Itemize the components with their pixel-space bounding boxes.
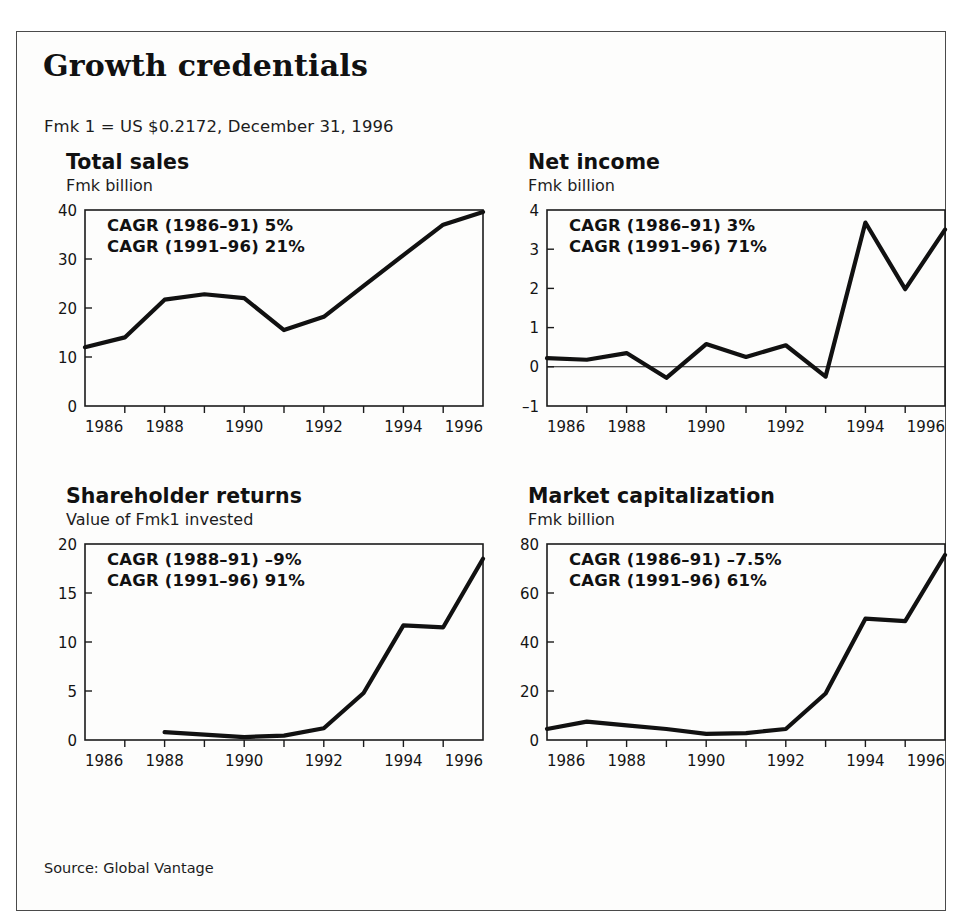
y-tick-label: 0 — [529, 358, 539, 376]
x-tick-label: 1996 — [445, 752, 483, 770]
x-tick-label: 1986 — [85, 752, 123, 770]
x-tick-label: 1990 — [225, 418, 263, 436]
y-tick-label: 20 — [520, 683, 539, 701]
y-tick-label: 40 — [520, 634, 539, 652]
y-tick-label: 40 — [58, 202, 77, 220]
chart-subtitle-net-income: Fmk billion — [528, 176, 615, 195]
y-tick-label: 0 — [529, 732, 539, 750]
x-tick-label: 1992 — [305, 418, 343, 436]
x-tick-label: 1990 — [687, 418, 725, 436]
cagr-line-2: CAGR (1991–96) 21% — [107, 237, 305, 258]
x-tick-label: 1988 — [608, 752, 646, 770]
cagr-annotation-market-capitalization: CAGR (1986–91) –7.5% CAGR (1991–96) 61% — [569, 550, 782, 592]
y-tick-label: 80 — [520, 536, 539, 554]
x-tick-label: 1988 — [608, 418, 646, 436]
y-tick-label: 0 — [67, 398, 77, 416]
y-tick-label: 1 — [529, 319, 539, 337]
x-tick-label: 1996 — [907, 752, 945, 770]
x-tick-label: 1990 — [225, 752, 263, 770]
chart-subtitle-market-capitalization: Fmk billion — [528, 510, 615, 529]
chart-panel-total-sales: Total sales Fmk billion 0102030401986198… — [39, 150, 491, 450]
chart-subtitle-shareholder-returns: Value of Fmk1 invested — [66, 510, 253, 529]
source-note: Source: Global Vantage — [44, 860, 214, 876]
chart-subtitle-total-sales: Fmk billion — [66, 176, 153, 195]
y-tick-label: 10 — [58, 349, 77, 367]
x-tick-label: 1996 — [445, 418, 483, 436]
x-tick-label: 1986 — [547, 752, 585, 770]
x-tick-label: 1988 — [146, 418, 184, 436]
chart-title-market-capitalization: Market capitalization — [528, 484, 775, 508]
chart-title-shareholder-returns: Shareholder returns — [66, 484, 302, 508]
cagr-line-1: CAGR (1986–91) 3% — [569, 216, 767, 237]
chart-title-net-income: Net income — [528, 150, 660, 174]
cagr-line-1: CAGR (1986–91) 5% — [107, 216, 305, 237]
chart-title-total-sales: Total sales — [66, 150, 189, 174]
exhibit-inner: Growth credentials Fmk 1 = US $0.2172, D… — [17, 32, 945, 910]
y-tick-label: 0 — [67, 732, 77, 750]
x-tick-label: 1992 — [305, 752, 343, 770]
x-tick-label: 1996 — [907, 418, 945, 436]
cagr-line-2: CAGR (1991–96) 91% — [107, 571, 305, 592]
x-tick-label: 1986 — [547, 418, 585, 436]
cagr-annotation-total-sales: CAGR (1986–91) 5% CAGR (1991–96) 21% — [107, 216, 305, 258]
y-tick-label: 15 — [58, 585, 77, 603]
cagr-line-1: CAGR (1986–91) –7.5% — [569, 550, 782, 571]
chart-panel-net-income: Net income Fmk billion –1012341986198819… — [501, 150, 953, 450]
x-tick-label: 1988 — [146, 752, 184, 770]
y-tick-label: 20 — [58, 300, 77, 318]
chart-panel-shareholder-returns: Shareholder returns Value of Fmk1 invest… — [39, 484, 491, 784]
y-tick-label: 4 — [529, 202, 539, 220]
chart-panel-market-capitalization: Market capitalization Fmk billion 020406… — [501, 484, 953, 784]
x-tick-label: 1994 — [846, 418, 884, 436]
y-tick-label: 3 — [529, 241, 539, 259]
exhibit-frame: Growth credentials Fmk 1 = US $0.2172, D… — [16, 31, 946, 911]
y-tick-label: 20 — [58, 536, 77, 554]
cagr-annotation-shareholder-returns: CAGR (1988–91) –9% CAGR (1991–96) 91% — [107, 550, 305, 592]
y-tick-label: 2 — [529, 280, 539, 298]
cagr-line-2: CAGR (1991–96) 61% — [569, 571, 782, 592]
page-title: Growth credentials — [43, 48, 368, 83]
x-tick-label: 1994 — [384, 418, 422, 436]
cagr-line-2: CAGR (1991–96) 71% — [569, 237, 767, 258]
y-tick-label: –1 — [522, 398, 539, 416]
cagr-annotation-net-income: CAGR (1986–91) 3% CAGR (1991–96) 71% — [569, 216, 767, 258]
x-tick-label: 1990 — [687, 752, 725, 770]
y-tick-label: 30 — [58, 251, 77, 269]
x-tick-label: 1992 — [767, 418, 805, 436]
x-tick-label: 1994 — [384, 752, 422, 770]
cagr-line-1: CAGR (1988–91) –9% — [107, 550, 305, 571]
x-tick-label: 1994 — [846, 752, 884, 770]
y-tick-label: 5 — [67, 683, 77, 701]
y-tick-label: 60 — [520, 585, 539, 603]
x-tick-label: 1986 — [85, 418, 123, 436]
x-tick-label: 1992 — [767, 752, 805, 770]
y-tick-label: 10 — [58, 634, 77, 652]
exchange-rate-note: Fmk 1 = US $0.2172, December 31, 1996 — [44, 117, 394, 136]
